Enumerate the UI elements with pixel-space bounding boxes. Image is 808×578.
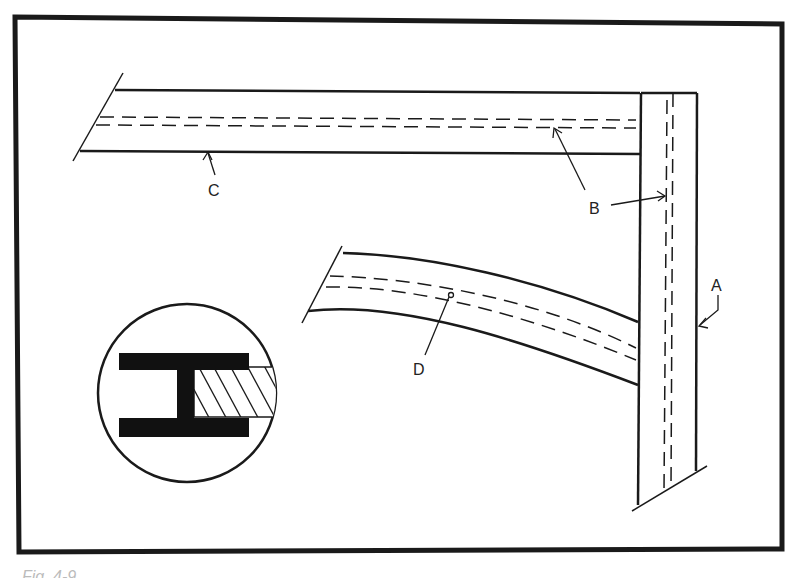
figure-caption: Fig. 4-9. [22,566,81,578]
curved-brace [302,246,638,385]
figure-frame [15,17,782,552]
joint-diagram: C B A D [0,0,808,578]
cross-section-inset [98,304,296,482]
label-c: C [208,182,220,199]
horizontal-rail [73,73,640,161]
label-a: A [711,277,722,294]
vertical-post [632,93,707,511]
label-d: D [413,361,425,378]
label-b: B [589,200,600,217]
